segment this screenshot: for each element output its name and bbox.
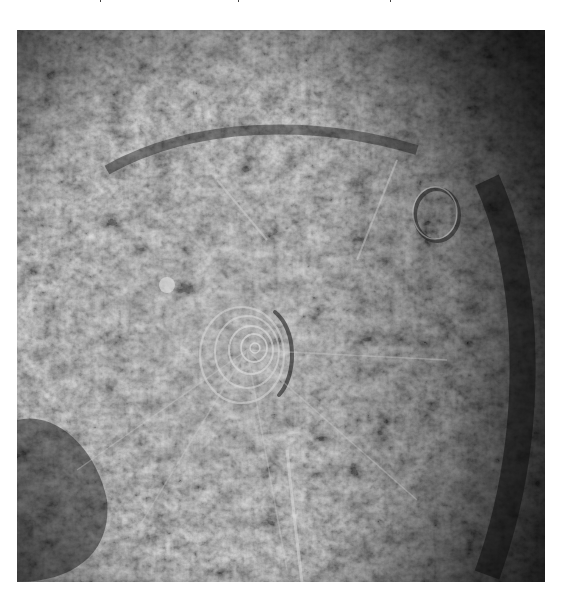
planetary-surface-photo [17,30,545,582]
clipped-caption-line [0,0,563,3]
